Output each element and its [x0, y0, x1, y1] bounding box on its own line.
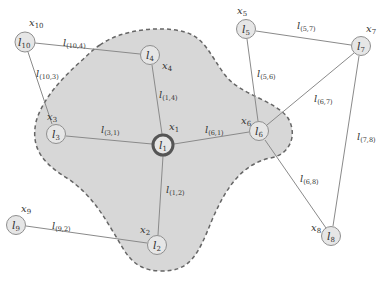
edge-label-6-8: l(6,8)	[300, 173, 319, 186]
edge-6-7	[267, 53, 354, 125]
edge-label-10-4: l(10,4)	[63, 37, 86, 50]
node-l7: l7 x7	[352, 23, 377, 56]
node-var: x7	[366, 23, 376, 36]
edge-label-7-8: l(7,8)	[357, 131, 376, 144]
node-l9: l9 x9	[7, 203, 32, 235]
edge-label-10-3: l(10,3)	[36, 68, 59, 81]
edge-label-5-7: l(5,7)	[297, 20, 316, 33]
edge-label-5-6: l(5,6)	[257, 68, 276, 81]
node-var: x5	[237, 5, 247, 18]
node-l10: l10 x10	[15, 17, 44, 52]
node-l5: l5 x5	[237, 5, 256, 39]
edge-label-6-7: l(6,7)	[314, 93, 333, 106]
edge-7-8	[333, 56, 359, 226]
edge-5-7	[256, 31, 351, 45]
node-var: x9	[21, 203, 31, 216]
node-l8: l8 x8	[311, 222, 341, 246]
node-var: x10	[29, 17, 44, 30]
edge-label-9-2: l(9,2)	[52, 220, 71, 233]
graph-diagram: l(10,4) l(10,3) l(1,4) l(3,1) l(6,1) l(1…	[0, 0, 378, 284]
node-var: x8	[311, 222, 321, 235]
